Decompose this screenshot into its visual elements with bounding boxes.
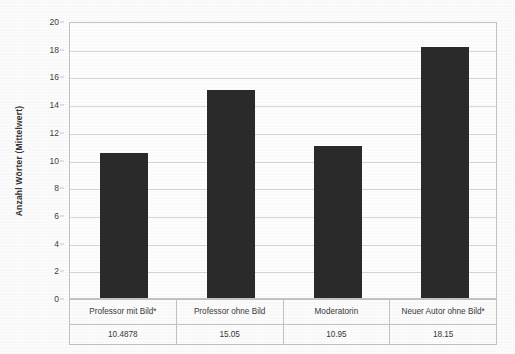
y-axis-tick-mark: [60, 299, 64, 300]
y-axis-tick-20: 20: [50, 17, 59, 27]
bar-1: [100, 153, 148, 298]
y-axis-tick-mark: [60, 22, 64, 23]
y-axis-tick-2: 2: [54, 266, 59, 276]
y-axis-tick-4: 4: [54, 239, 59, 249]
plot-area: [69, 22, 497, 299]
table-row-values: 10.487815.0510.9518.15: [70, 325, 497, 345]
data-table: Professor mit Bild*Professor ohne BildMo…: [69, 299, 497, 345]
y-axis-title-text: Anzahl Wörter (Mittelwert): [14, 105, 24, 216]
bar-chart-figure: Anzahl Wörter (Mittelwert) 0246810121416…: [0, 0, 515, 354]
bar-2: [207, 90, 255, 298]
y-axis-tick-10: 10: [50, 156, 59, 166]
y-axis-tick-labels: 02468101214161820: [34, 22, 64, 299]
table-cell-category-4: Neuer Autor ohne Bild*: [390, 300, 497, 325]
table-cell-value-4: 18.15: [390, 325, 497, 345]
y-axis-tick-mark: [60, 271, 64, 272]
y-axis-tick-0: 0: [54, 294, 59, 304]
y-axis-tick-16: 16: [50, 72, 59, 82]
y-axis-tick-mark: [60, 105, 64, 106]
table-row-categories: Professor mit Bild*Professor ohne BildMo…: [70, 300, 497, 325]
y-axis-tick-12: 12: [50, 128, 59, 138]
table-cell-value-3: 10.95: [283, 325, 390, 345]
table-cell-category-2: Professor ohne Bild: [176, 300, 283, 325]
table-cell-value-1: 10.4878: [70, 325, 177, 345]
table-cell-category-1: Professor mit Bild*: [70, 300, 177, 325]
y-axis-tick-mark: [60, 160, 64, 161]
bar-4: [421, 47, 469, 298]
y-axis-tick-6: 6: [54, 211, 59, 221]
y-axis-tick-mark: [60, 215, 64, 216]
y-axis-tick-mark: [60, 49, 64, 50]
y-axis-tick-mark: [60, 132, 64, 133]
y-axis-tick-18: 18: [50, 45, 59, 55]
y-axis-tick-mark: [60, 188, 64, 189]
y-axis-tick-mark: [60, 243, 64, 244]
y-axis-tick-mark: [60, 77, 64, 78]
bar-3: [314, 146, 362, 298]
y-axis-tick-8: 8: [54, 183, 59, 193]
table-cell-value-2: 15.05: [176, 325, 283, 345]
y-axis-tick-14: 14: [50, 100, 59, 110]
y-axis-title: Anzahl Wörter (Mittelwert): [8, 22, 30, 299]
table-cell-category-3: Moderatorin: [283, 300, 390, 325]
